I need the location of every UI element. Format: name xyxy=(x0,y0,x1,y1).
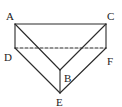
label-a: A xyxy=(6,10,14,22)
prism-diagram: A C D F B E xyxy=(0,0,122,107)
edges xyxy=(15,24,106,93)
label-f: F xyxy=(107,55,113,67)
edge-fe xyxy=(60,48,106,93)
label-b: B xyxy=(64,72,71,84)
edge-de xyxy=(15,48,60,93)
edge-cb xyxy=(60,24,106,70)
label-d: D xyxy=(4,51,12,63)
label-e: E xyxy=(56,96,63,107)
edge-ab xyxy=(15,24,60,70)
label-c: C xyxy=(107,10,114,22)
